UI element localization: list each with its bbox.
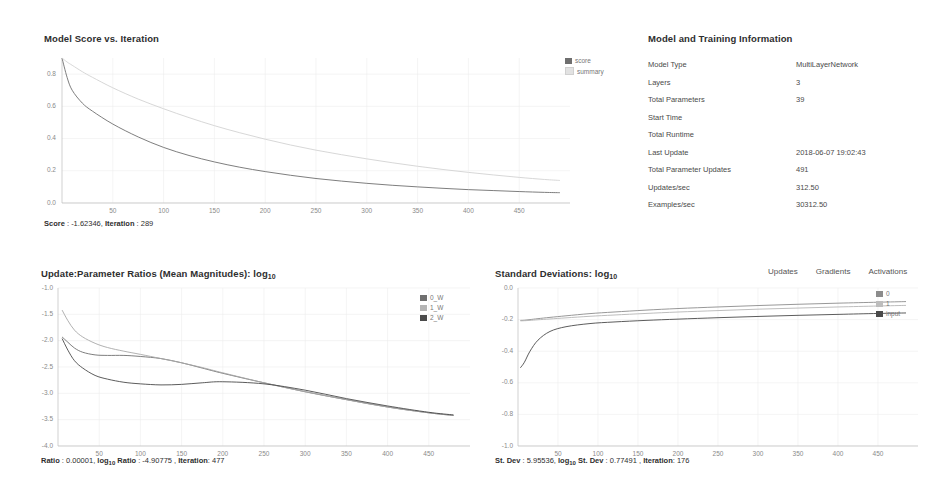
legend-item-2w[interactable]: 2_W [420,314,443,321]
series-line-summary [62,58,560,180]
model-info-value: MultiLayerNetwork [796,60,858,69]
legend-label-0: 0 [886,290,890,297]
y-tick-label: 0.0 [487,284,513,291]
legend-item-summary[interactable]: summary [565,67,604,75]
ratios-plot: -1.0-1.5-2.0-2.5-3.0-3.5-4.0501001502002… [58,288,470,446]
y-tick-label: -1.5 [27,310,53,317]
model-info-row: Total Runtime [648,126,948,144]
ratios-status-logratio-label: Ratio [117,456,136,465]
y-tick-label: -0.4 [487,347,513,354]
model-info-key: Updates/sec [648,183,796,192]
model-info-key: Total Parameter Updates [648,165,796,174]
model-score-legend: score summary [565,57,604,78]
legend-label-score: score [575,57,591,64]
model-info-row: Last Update2018-06-07 19:02:43 [648,144,948,162]
model-info-row: Start Time [648,109,948,127]
series-line-score [62,58,560,193]
model-info-row: Layers3 [648,74,948,92]
score-status-score-value: -1.62346 [71,219,101,228]
model-info-key: Layers [648,78,796,87]
y-tick-label: -2.0 [27,336,53,343]
model-info-row: Examples/sec30312.50 [648,196,948,214]
x-tick-label: 300 [744,450,772,457]
y-tick-label: -0.6 [487,378,513,385]
legend-item-0[interactable]: 0 [876,290,900,297]
series-line-0-w [62,337,453,415]
stddev-status-label: St. Dev [495,456,520,465]
legend-swatch-score [565,58,572,64]
ratios-status-iteration-label: Iteration [178,456,208,465]
legend-label-1w: 1_W [430,304,443,311]
stddev-status: St. Dev : 5.95536, log10 St. Dev : 0.774… [495,456,689,465]
y-tick-label: 0.0 [30,199,56,206]
stddev-status-value: 5.95536 [527,456,554,465]
y-tick-label: -0.8 [487,410,513,417]
legend-item-1w[interactable]: 1_W [420,304,443,311]
ratios-status: Ratio : 0.00001, log10 Ratio : -4.90775 … [41,456,225,465]
y-tick-label: -0.2 [487,315,513,322]
model-score-chart: 0.00.20.40.60.85010015020025030035040045… [0,0,640,215]
legend-swatch-2w [420,315,427,321]
x-tick-label: 150 [200,207,228,214]
x-tick-label: 450 [505,207,533,214]
update-parameter-ratios-panel: Update:Parameter Ratios (Mean Magnitudes… [0,250,490,492]
model-score-status: Score : -1.62346, Iteration : 289 [44,219,153,228]
x-tick-label: 50 [99,207,127,214]
x-tick-label: 350 [404,207,432,214]
series-line-1 [520,305,906,320]
x-tick-label: 250 [704,450,732,457]
model-info-value: 491 [796,165,809,174]
ratios-status-ratio-value: 0.00001 [66,456,93,465]
standard-deviations-panel: Standard Deviations: log10 Updates Gradi… [490,250,950,492]
model-info-row: Total Parameter Updates491 [648,161,948,179]
model-info-title: Model and Training Information [648,33,792,44]
stddev-status-iteration-value: 176 [677,456,690,465]
x-tick-label: 350 [332,450,360,457]
update-parameter-ratios-svg [58,288,470,446]
legend-swatch-input [876,311,883,317]
stddev-plot: 0.0-0.2-0.4-0.6-0.8-1.050100150200250300… [518,288,918,446]
x-tick-label: 250 [250,450,278,457]
y-tick-label: 0.4 [30,134,56,141]
y-tick-label: -3.0 [27,389,53,396]
model-info-value: 30312.50 [796,200,827,209]
y-tick-label: 0.2 [30,166,56,173]
legend-item-input[interactable]: input [876,310,900,317]
legend-item-score[interactable]: score [565,57,604,64]
stddev-status-log-label: log [558,456,569,465]
ratios-chart: -1.0-1.5-2.0-2.5-3.0-3.5-4.0501001502002… [0,250,490,455]
legend-label-summary: summary [577,68,604,75]
y-tick-label: -4.0 [27,442,53,449]
x-tick-label: 450 [864,450,892,457]
model-info-row: Updates/sec312.50 [648,179,948,197]
x-tick-label: 250 [302,207,330,214]
legend-swatch-summary [565,67,574,75]
model-info-value: 312.50 [796,183,819,192]
model-info-value: 39 [796,95,804,104]
legend-swatch-0 [876,291,883,297]
model-info-key: Model Type [648,60,796,69]
legend-label-0w: 0_W [430,294,443,301]
ratios-legend: 0_W 1_W 2_W [420,294,443,324]
ratios-status-logratio-value: -4.90775 [142,456,172,465]
y-tick-label: -2.5 [27,363,53,370]
legend-item-1[interactable]: 1 [876,300,900,307]
legend-item-0w[interactable]: 0_W [420,294,443,301]
model-score-plot: 0.00.20.40.60.85010015020025030035040045… [62,58,570,203]
series-line-input [520,313,906,368]
model-score-panel: Model Score vs. Iteration 0.00.20.40.60.… [0,0,640,240]
model-info-value: 3 [796,78,800,87]
model-score-vs-iteration-svg [62,58,570,203]
stddev-status-logstdev-value: 0.77491 [610,456,637,465]
stddev-status-logstdev-label: St. Dev [578,456,603,465]
stddev-legend: 0 1 input [876,290,900,320]
legend-label-1: 1 [886,300,890,307]
series-line-2-w [62,339,453,415]
model-info-panel: Model and Training Information Model Typ… [648,0,950,240]
model-info-row: Model TypeMultiLayerNetwork [648,56,948,74]
model-info-table: Model TypeMultiLayerNetworkLayers3Total … [648,56,948,214]
x-tick-label: 200 [251,207,279,214]
model-info-key: Examples/sec [648,200,796,209]
standard-deviations-svg [518,288,918,446]
model-info-key: Total Parameters [648,95,796,104]
